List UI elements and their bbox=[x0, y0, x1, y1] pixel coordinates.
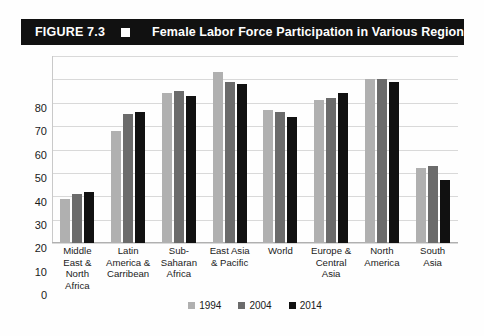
legend-item-2004[interactable]: 2004 bbox=[238, 300, 271, 311]
white-square-icon bbox=[121, 28, 130, 37]
bar bbox=[213, 72, 223, 243]
y-axis-tick-30: 30 bbox=[21, 219, 47, 231]
bar bbox=[186, 96, 196, 243]
x-axis-label: SouthAsia bbox=[407, 245, 458, 291]
x-axis-category-labels: MiddleEast &North AfricaLatinAmerica &Ca… bbox=[52, 245, 458, 291]
legend-label: 2004 bbox=[249, 300, 271, 311]
bar bbox=[174, 91, 184, 243]
legend-swatch-icon bbox=[289, 302, 296, 309]
plot-grid-area bbox=[52, 56, 458, 243]
y-axis-tick-0: 0 bbox=[21, 289, 47, 301]
y-axis-tick-80: 80 bbox=[21, 102, 47, 114]
bar-groups bbox=[52, 56, 458, 243]
chart-area: 80706050403020100 MiddleEast &North Afri… bbox=[21, 50, 464, 336]
bar bbox=[60, 199, 70, 243]
x-axis-label: NorthAmerica bbox=[357, 245, 408, 291]
x-axis-label: East Asia& Pacific bbox=[204, 245, 255, 291]
bar bbox=[365, 79, 375, 243]
bar bbox=[72, 194, 82, 243]
bar bbox=[275, 112, 285, 243]
legend-item-2014[interactable]: 2014 bbox=[289, 300, 322, 311]
legend-label: 1994 bbox=[199, 300, 221, 311]
legend-label: 2014 bbox=[300, 300, 322, 311]
bar bbox=[428, 166, 438, 243]
bar-group bbox=[204, 56, 255, 243]
bar bbox=[338, 93, 348, 243]
bar-group bbox=[407, 56, 458, 243]
y-axis-tick-70: 70 bbox=[21, 125, 47, 137]
legend-swatch-icon bbox=[238, 302, 245, 309]
bar-group bbox=[103, 56, 154, 243]
bar-group bbox=[357, 56, 408, 243]
figure-container: FIGURE 7.3 Female Labor Force Participat… bbox=[0, 0, 484, 336]
bar bbox=[162, 93, 172, 243]
y-axis-tick-10: 10 bbox=[21, 266, 47, 278]
bar-group bbox=[255, 56, 306, 243]
bar bbox=[416, 168, 426, 243]
bar bbox=[314, 100, 324, 243]
legend-swatch-icon bbox=[188, 302, 195, 309]
bar bbox=[84, 192, 94, 243]
x-axis-label: MiddleEast &North Africa bbox=[52, 245, 103, 291]
bar bbox=[377, 79, 387, 243]
x-axis-label: Europe &CentralAsia bbox=[306, 245, 357, 291]
bar bbox=[135, 112, 145, 243]
bar-group bbox=[154, 56, 205, 243]
bar bbox=[326, 98, 336, 243]
bar-group bbox=[52, 56, 103, 243]
figure-header: FIGURE 7.3 Female Labor Force Participat… bbox=[21, 19, 464, 45]
y-axis-tick-60: 60 bbox=[21, 149, 47, 161]
legend-item-1994[interactable]: 1994 bbox=[188, 300, 221, 311]
bar-group bbox=[306, 56, 357, 243]
chart-legend: 199420042014 bbox=[52, 300, 458, 311]
x-axis-label: Sub-SaharanAfrica bbox=[154, 245, 205, 291]
bar bbox=[440, 180, 450, 243]
gridline-0 bbox=[52, 243, 458, 244]
figure-number-label: FIGURE 7.3 bbox=[35, 25, 105, 39]
y-axis-tick-20: 20 bbox=[21, 242, 47, 254]
bar bbox=[237, 84, 247, 243]
bar bbox=[263, 110, 273, 243]
bar bbox=[389, 82, 399, 243]
y-axis-tick-50: 50 bbox=[21, 172, 47, 184]
y-axis-tick-40: 40 bbox=[21, 196, 47, 208]
bar bbox=[123, 114, 133, 243]
bar bbox=[111, 131, 121, 243]
figure-title: Female Labor Force Participation in Vari… bbox=[152, 25, 471, 39]
x-axis-label: World bbox=[255, 245, 306, 291]
bar bbox=[225, 82, 235, 243]
bar bbox=[287, 117, 297, 243]
x-axis-label: LatinAmerica &Carribean bbox=[103, 245, 154, 291]
